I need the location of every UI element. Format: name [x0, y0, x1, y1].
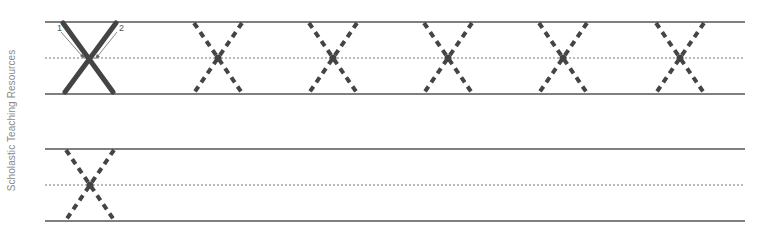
- stroke-number-1: 1: [57, 23, 62, 33]
- trace-letter-x[interactable]: [656, 23, 704, 93]
- handwriting-practice-sheet: 1 2: [0, 0, 783, 238]
- stroke-number-2: 2: [119, 23, 124, 33]
- row-1-guidelines: [45, 22, 745, 94]
- row-2-guidelines: [45, 149, 745, 221]
- trace-letter-x[interactable]: [424, 23, 472, 93]
